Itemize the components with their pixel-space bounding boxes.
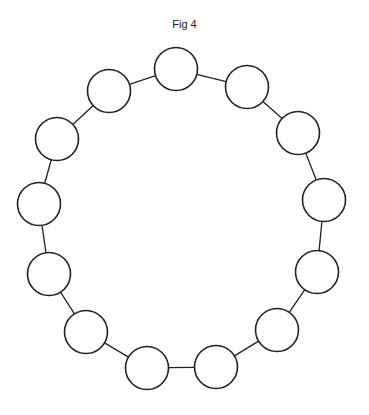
connector-line [45,160,52,184]
ring-node [18,183,61,226]
connector-line [319,221,322,250]
connector-line [73,106,93,125]
connector-line [289,290,305,313]
connector-line [234,341,258,356]
ring-node [256,309,299,352]
connector-line [306,153,316,180]
connector-line [197,74,226,81]
connector-line [105,343,129,357]
ring-node [296,251,339,294]
connector-line [263,101,282,118]
ring-node [36,118,79,161]
ring-node [195,346,238,389]
ring-node [28,253,71,296]
ring-node [155,48,198,91]
connector-line [129,76,155,85]
ring-node [88,70,131,113]
ring-node [126,347,169,390]
ring-node [303,179,346,222]
connector-line [42,225,46,252]
ring-node [226,66,269,109]
ring-diagram [0,0,369,415]
ring-node [65,311,108,354]
ring-node [277,112,320,155]
connector-line [61,292,75,314]
